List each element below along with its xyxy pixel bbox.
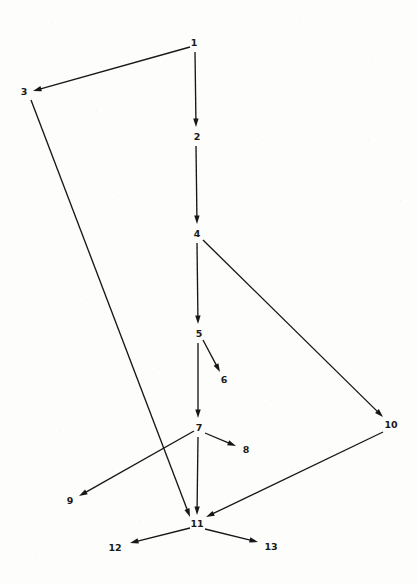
edge-arrowhead <box>194 506 199 515</box>
graph-node-7[interactable]: 7 <box>196 423 202 433</box>
graph-edge <box>205 529 251 540</box>
graph-edge <box>31 100 188 510</box>
graph-node-6[interactable]: 6 <box>221 375 227 385</box>
edge-arrowhead <box>195 410 200 419</box>
graph-node-13[interactable]: 13 <box>265 542 278 552</box>
graph-node-3[interactable]: 3 <box>21 87 27 97</box>
graph-edge <box>212 432 383 514</box>
edge-arrowhead <box>33 86 42 91</box>
graph-edge <box>205 433 230 443</box>
graph-node-8[interactable]: 8 <box>243 445 249 455</box>
edge-arrowhead <box>79 489 88 496</box>
graph-diagram-canvas: 12345678910111213 <box>0 0 418 585</box>
edge-arrowhead <box>130 538 139 543</box>
graph-node-5[interactable]: 5 <box>196 329 202 339</box>
graph-edge <box>197 437 198 508</box>
graph-edge <box>40 47 190 89</box>
edge-arrowhead <box>195 315 200 324</box>
graph-edge <box>203 240 378 412</box>
edge-arrowhead <box>227 440 236 446</box>
graph-edge <box>137 528 190 541</box>
edge-arrowhead <box>184 508 190 517</box>
graph-node-12[interactable]: 12 <box>109 543 122 553</box>
graph-node-1[interactable]: 1 <box>191 38 197 48</box>
graph-edge <box>196 146 197 217</box>
graph-edge <box>197 243 198 317</box>
edges-group <box>31 47 383 541</box>
graph-node-9[interactable]: 9 <box>67 496 73 506</box>
graph-node-11[interactable]: 11 <box>191 519 204 529</box>
graph-node-4[interactable]: 4 <box>194 229 200 239</box>
edge-arrowhead <box>249 537 258 542</box>
arrowheads-group <box>33 86 383 543</box>
graph-edge <box>203 340 217 366</box>
graph-edge <box>195 52 196 120</box>
edge-arrowhead <box>194 215 199 224</box>
edge-arrowhead <box>193 118 198 127</box>
edge-arrowhead <box>206 511 215 517</box>
graph-edges-layer <box>0 0 418 585</box>
graph-node-2[interactable]: 2 <box>194 132 200 142</box>
edge-arrowhead <box>214 363 220 372</box>
graph-node-10[interactable]: 10 <box>385 420 398 430</box>
